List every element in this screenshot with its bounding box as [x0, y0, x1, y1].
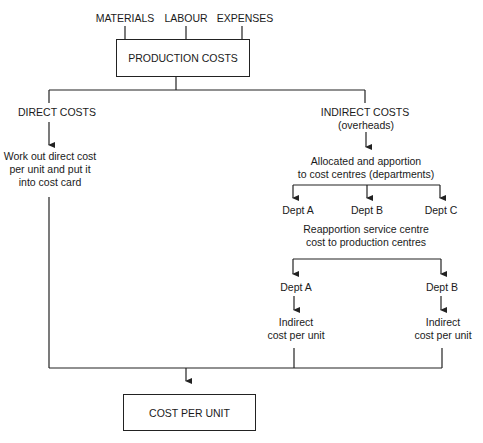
prod-dept-a-label: Dept A [280, 281, 312, 294]
reapportion-line-2: cost to production centres [306, 236, 426, 249]
direct-step-line-1: Work out direct cost [4, 150, 97, 163]
direct-step-line-3: into cost card [19, 176, 81, 189]
direct-step-line-2: per unit and put it [9, 163, 90, 176]
production-costs-box: PRODUCTION COSTS [116, 39, 250, 77]
dept-a-label: Dept A [282, 204, 314, 217]
input-expenses: EXPENSES [217, 12, 274, 25]
direct-costs-title: DIRECT COSTS [18, 106, 96, 119]
reapportion-line-1: Reapportion service centre [303, 223, 428, 236]
indirect-costs-title: INDIRECT COSTS [321, 106, 409, 119]
prod-dept-b-result-2: cost per unit [414, 329, 471, 342]
dept-b-label: Dept B [351, 204, 383, 217]
cost-flow-diagram: MATERIALS LABOUR EXPENSES PRODUCTION COS… [0, 0, 483, 443]
prod-dept-a-result-2: cost per unit [267, 329, 324, 342]
input-labour: LABOUR [164, 12, 207, 25]
indirect-costs-subtitle: (overheads) [338, 119, 394, 132]
allocate-line-2: to cost centres (departments) [298, 168, 435, 181]
prod-dept-b-result-1: Indirect [426, 316, 460, 329]
dept-c-label: Dept C [425, 204, 458, 217]
cost-per-unit-label: COST PER UNIT [149, 407, 230, 419]
prod-dept-b-label: Dept B [426, 281, 458, 294]
allocate-line-1: Allocated and apportion [311, 155, 421, 168]
production-costs-label: PRODUCTION COSTS [128, 52, 238, 64]
cost-per-unit-box: COST PER UNIT [123, 394, 256, 431]
prod-dept-a-result-1: Indirect [279, 316, 313, 329]
input-materials: MATERIALS [96, 12, 155, 25]
